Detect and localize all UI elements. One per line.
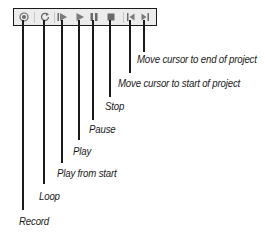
leader-line-stop	[109, 20, 111, 97]
label-play-from-start: Play from start	[57, 167, 117, 179]
label-stop: Stop	[105, 100, 124, 112]
label-move-to-end: Move cursor to end of project	[137, 53, 257, 65]
toolbar-separator	[34, 12, 35, 23]
leader-line-play	[78, 20, 80, 140]
label-pause: Pause	[89, 123, 115, 135]
label-move-to-start: Move cursor to start of project	[118, 77, 240, 89]
leader-line-record	[22, 20, 24, 210]
label-record: Record	[19, 215, 49, 227]
toolbar-separator	[54, 12, 55, 23]
leader-line-play-from-start	[61, 20, 63, 163]
label-play: Play	[73, 145, 91, 157]
leader-line-move-to-end	[143, 20, 145, 52]
toolbar-separator	[123, 12, 124, 23]
leader-line-loop	[43, 20, 45, 184]
leader-line-move-to-start	[129, 20, 131, 73]
leader-line-pause	[92, 20, 94, 120]
label-loop: Loop	[39, 190, 60, 202]
